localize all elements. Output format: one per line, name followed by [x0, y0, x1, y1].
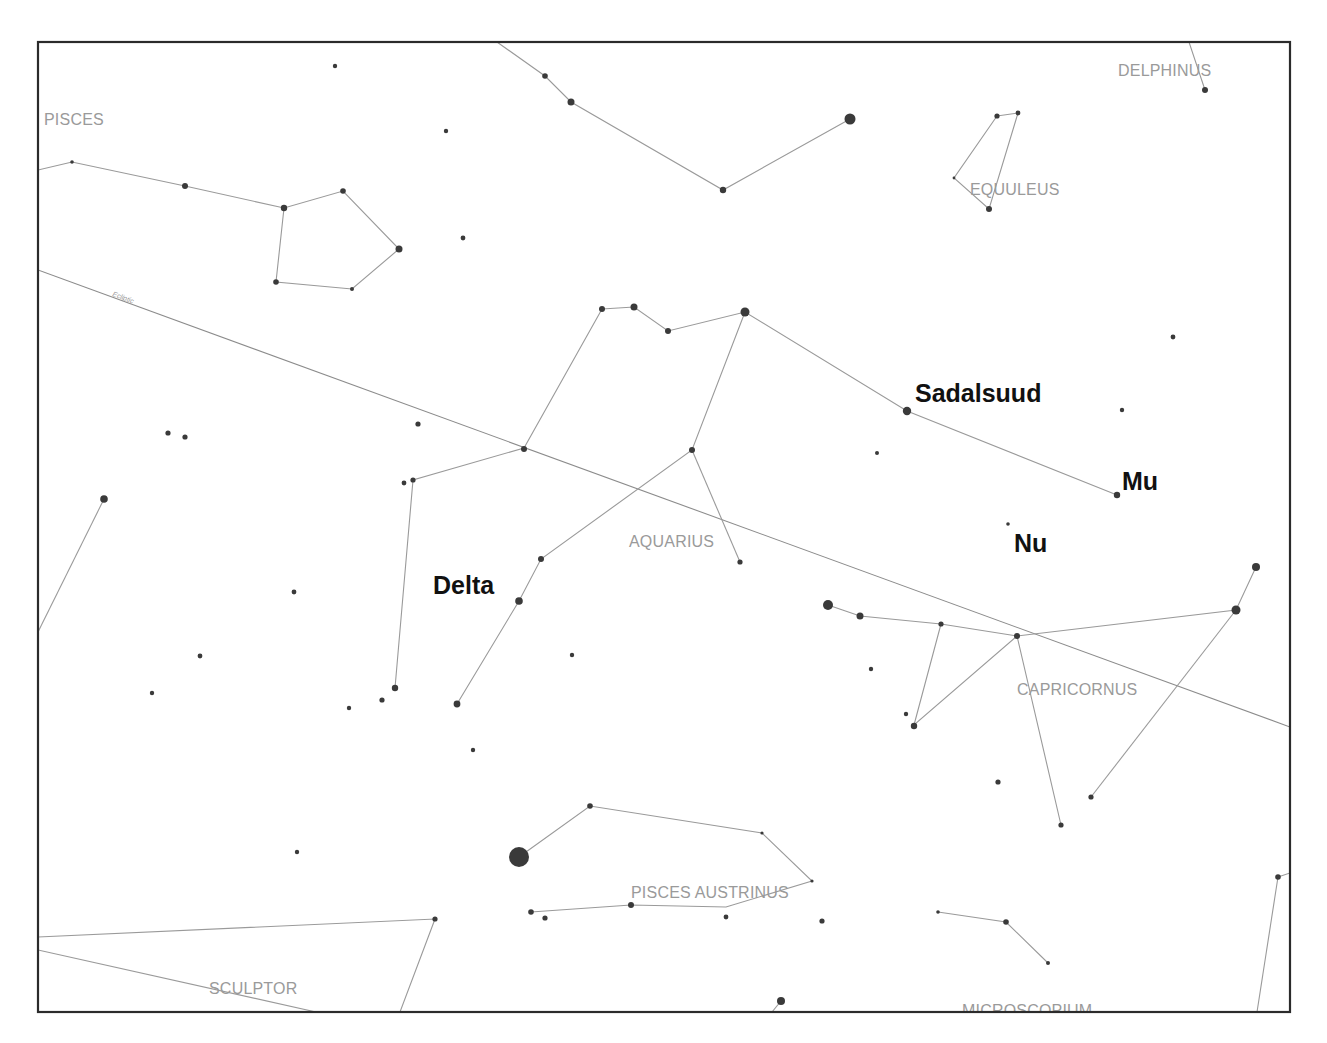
star-marker: [100, 495, 108, 503]
ecliptic-label: Ecliptic: [111, 290, 135, 305]
star-marker: [741, 308, 750, 317]
constellation-line: [38, 499, 104, 632]
constellation-line: [38, 919, 435, 1012]
star-marker: [1003, 919, 1009, 925]
constellation-line: [938, 912, 1048, 963]
constellation-label: PISCES AUSTRINUS: [631, 884, 789, 901]
star-chart: Ecliptic PISCESDELPHINUSEQUULEUSAQUARIUS…: [0, 0, 1327, 1043]
star-marker: [538, 556, 544, 562]
star-marker: [292, 590, 297, 595]
constellation-line: [457, 312, 745, 704]
star-marker: [1232, 606, 1241, 615]
star-name-label: Delta: [433, 571, 495, 599]
star-marker: [333, 64, 337, 68]
constellation-line: [828, 567, 1256, 636]
star-labels: SadalsuudMuNuDelta: [433, 379, 1158, 599]
star-marker: [198, 654, 203, 659]
star-marker: [911, 723, 917, 729]
star-marker: [995, 779, 1000, 784]
constellation-label: DELPHINUS: [1118, 62, 1211, 79]
star-marker: [599, 306, 605, 312]
star-marker: [1014, 633, 1020, 639]
star-marker: [347, 706, 351, 710]
star-marker: [1252, 563, 1260, 571]
star-marker: [471, 748, 475, 752]
star-marker: [1171, 335, 1176, 340]
constellation-line: [1091, 610, 1236, 797]
star-marker: [875, 451, 879, 455]
map-content: Ecliptic PISCESDELPHINUSEQUULEUSAQUARIUS…: [38, 42, 1290, 1019]
constellation-label: AQUARIUS: [629, 533, 714, 550]
chart-frame: [38, 42, 1290, 1012]
constellation-lines: [38, 42, 1290, 1012]
star-marker: [936, 910, 940, 914]
constellation-line: [1257, 877, 1278, 1012]
star-marker: [396, 246, 403, 253]
star-marker: [1202, 87, 1208, 93]
star-marker: [986, 206, 992, 212]
star-marker: [628, 902, 634, 908]
star-name-label: Nu: [1014, 529, 1047, 557]
star-marker: [1275, 874, 1281, 880]
star-marker: [295, 850, 299, 854]
star-marker: [182, 183, 188, 189]
star-marker: [521, 446, 527, 452]
star-marker: [823, 600, 833, 610]
star-name-label: Mu: [1122, 467, 1158, 495]
star-marker: [587, 803, 593, 809]
star-marker: [1120, 408, 1124, 412]
star-marker: [845, 114, 856, 125]
star-marker: [938, 621, 943, 626]
star-marker: [273, 279, 279, 285]
star-marker: [454, 701, 461, 708]
star-marker: [281, 205, 287, 211]
star-marker: [415, 421, 420, 426]
star-marker: [461, 236, 466, 241]
star-marker: [631, 304, 638, 311]
star-marker: [350, 287, 354, 291]
star-marker: [392, 685, 398, 691]
star-marker: [570, 653, 574, 657]
constellation-line: [914, 624, 1061, 825]
constellation-line: [395, 309, 602, 688]
star-marker: [857, 613, 864, 620]
constellation-label: PISCES: [44, 111, 104, 128]
star-marker: [1058, 822, 1063, 827]
star-marker: [1114, 492, 1120, 498]
constellation-line: [497, 42, 850, 190]
star-marker: [1016, 111, 1021, 116]
constellation-line: [38, 162, 399, 289]
star-marker: [444, 129, 448, 133]
star-marker: [994, 113, 999, 118]
star-marker: [410, 477, 415, 482]
star-marker: [777, 997, 785, 1005]
star-marker: [509, 847, 529, 867]
constellation-label: EQUULEUS: [970, 181, 1060, 198]
star-marker: [720, 187, 726, 193]
star-marker: [810, 879, 813, 882]
star-marker: [432, 916, 437, 921]
star-marker: [379, 697, 384, 702]
star-marker: [340, 188, 346, 194]
ecliptic-line: [38, 270, 1290, 727]
star-marker: [515, 597, 523, 605]
star-marker: [819, 918, 824, 923]
star-marker: [953, 177, 956, 180]
star-marker: [724, 915, 729, 920]
constellation-label: SCULPTOR: [209, 980, 297, 997]
star-marker: [903, 407, 911, 415]
star-marker: [665, 328, 671, 334]
star-marker: [1006, 522, 1010, 526]
star-marker: [904, 712, 908, 716]
star-marker: [528, 909, 534, 915]
star-marker: [1088, 794, 1093, 799]
star-marker: [737, 559, 742, 564]
star-name-label: Sadalsuud: [915, 379, 1041, 407]
star-marker: [568, 99, 575, 106]
constellation-label: MICROSCOPIUM: [962, 1002, 1092, 1019]
star-marker: [165, 430, 170, 435]
star-marker: [689, 447, 695, 453]
star-marker: [1046, 961, 1050, 965]
star-marker: [182, 434, 187, 439]
star-marker: [402, 481, 407, 486]
